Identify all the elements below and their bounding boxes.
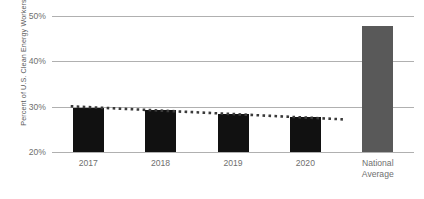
y-axis-tick-50: 50% <box>12 11 46 21</box>
x-axis-tick-labels: 2017201820192020NationalAverage <box>52 158 414 198</box>
trend-line <box>52 16 414 152</box>
x-axis-tick-text: National <box>342 158 414 169</box>
gridline-20 <box>52 152 414 153</box>
x-axis-tick-text: 2018 <box>124 158 196 169</box>
x-axis-tick-2020: 2020 <box>269 158 341 169</box>
y-axis-tick-40: 40% <box>12 56 46 66</box>
y-axis-title: Percent of U.S. Clean Energy Workers <box>19 0 28 138</box>
x-axis-tick-2019: 2019 <box>197 158 269 169</box>
plot-area <box>52 16 414 152</box>
x-axis-tick-text: Average <box>342 169 414 180</box>
y-axis-tick-30: 30% <box>12 102 46 112</box>
bar-chart: Percent of U.S. Clean Energy Workers 20%… <box>0 0 424 199</box>
trend-line-path <box>71 106 343 119</box>
x-axis-tick-2017: 2017 <box>52 158 124 169</box>
x-axis-tick-text: 2020 <box>269 158 341 169</box>
x-axis-tick-national-average: NationalAverage <box>342 158 414 179</box>
x-axis-tick-text: 2017 <box>52 158 124 169</box>
x-axis-tick-2018: 2018 <box>124 158 196 169</box>
x-axis-tick-text: 2019 <box>197 158 269 169</box>
y-axis-tick-20: 20% <box>12 147 46 157</box>
